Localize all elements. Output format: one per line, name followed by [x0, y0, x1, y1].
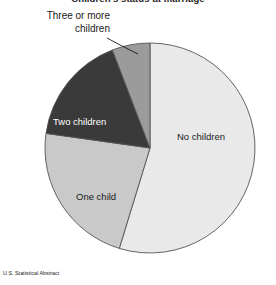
slice-label-three-or-more-children-line2: children [18, 22, 110, 35]
slice-label-two-children: Two children [53, 116, 106, 128]
slice-label-no-children: No children [177, 131, 225, 143]
slice-label-three-or-more-children-line1: Three or more [18, 9, 110, 22]
pie-slice-group [45, 43, 255, 253]
slice-label-one-child: One child [76, 191, 116, 203]
pie-svg [0, 0, 276, 285]
source-note: U.S. Statistical Abstract [3, 270, 59, 277]
pie-chart-figure: Children's status at marriage Three or m… [0, 0, 276, 285]
slice-label-three-or-more-children: Three or more children [18, 9, 110, 35]
